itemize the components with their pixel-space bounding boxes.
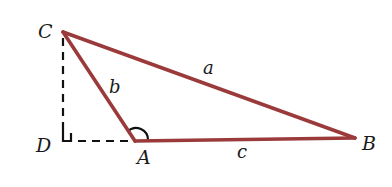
side-label-b: b: [109, 76, 121, 97]
right-angle-marker-d: [63, 128, 71, 141]
side-label-a: a: [203, 57, 214, 78]
vertex-label-a: A: [135, 146, 151, 168]
vertex-label-b: B: [361, 132, 376, 154]
side-label-c: c: [237, 141, 247, 162]
triangle-diagram: C D A B a b c: [0, 0, 392, 187]
side-b: [63, 32, 135, 141]
side-a: [63, 32, 355, 138]
vertex-label-d: D: [35, 134, 51, 156]
vertex-label-c: C: [38, 20, 53, 42]
